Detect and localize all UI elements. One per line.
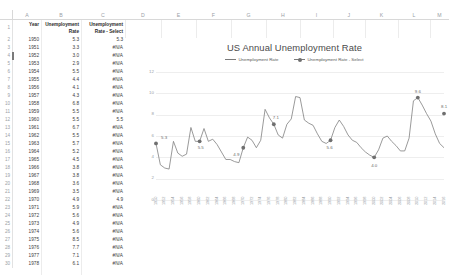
cell-a16[interactable]: 1964 (13, 148, 41, 156)
column-header-k[interactable]: K (365, 10, 398, 20)
cell-a19[interactable]: 1967 (13, 172, 41, 180)
cell-c12[interactable]: 5.5 (81, 116, 125, 124)
series-marker-select[interactable] (416, 96, 420, 100)
legend-item-unemployment-rate-select[interactable]: Unemployment Rate - Select (294, 57, 363, 62)
column-header-c[interactable]: C (81, 10, 125, 20)
cell-a8[interactable]: 1956 (13, 84, 41, 92)
row-header-7[interactable]: 7 (0, 76, 13, 84)
cell-c20[interactable]: #N/A (81, 180, 125, 188)
column-header-g[interactable]: G (231, 10, 266, 20)
cell-c17[interactable]: #N/A (81, 156, 125, 164)
cell-a14[interactable]: 1962 (13, 132, 41, 140)
cell-a11[interactable]: 1959 (13, 108, 41, 116)
row-header-8[interactable]: 8 (0, 84, 13, 92)
header-cell-a[interactable]: Year (13, 20, 41, 36)
column-header-h[interactable]: H (266, 10, 300, 20)
series-marker-select[interactable] (198, 139, 202, 143)
cell-a5[interactable]: 1953 (13, 60, 41, 68)
cell-a3[interactable]: 1951 (13, 44, 41, 52)
row-header-26[interactable]: 26 (0, 228, 13, 236)
column-header-j[interactable]: J (333, 10, 365, 20)
cell-a17[interactable]: 1965 (13, 156, 41, 164)
cell-c24[interactable]: #N/A (81, 212, 125, 220)
cell-b7[interactable]: 4.4 (41, 76, 81, 84)
cell-b30[interactable]: 6.1 (41, 260, 81, 268)
select-all-corner[interactable] (0, 10, 13, 20)
cell-b5[interactable]: 2.9 (41, 60, 81, 68)
cell-c22[interactable]: 4.9 (81, 196, 125, 204)
row-header-23[interactable]: 23 (0, 204, 13, 212)
cell-c28[interactable]: #N/A (81, 244, 125, 252)
chart-object[interactable]: US Annual Unemployment Rate Unemployment… (140, 30, 449, 245)
cell-c4[interactable]: #N/A (81, 52, 125, 60)
cell-b29[interactable]: 7.1 (41, 252, 81, 260)
cell-c25[interactable]: #N/A (81, 220, 125, 228)
cell-b27[interactable]: 8.5 (41, 236, 81, 244)
cell-c5[interactable]: #N/A (81, 60, 125, 68)
series-marker-select[interactable] (154, 142, 158, 146)
row-header-20[interactable]: 20 (0, 180, 13, 188)
row-header-10[interactable]: 10 (0, 100, 13, 108)
cell-b14[interactable]: 5.5 (41, 132, 81, 140)
cell-a21[interactable]: 1969 (13, 188, 41, 196)
cell-b20[interactable]: 3.6 (41, 180, 81, 188)
series-marker-select[interactable] (372, 155, 376, 159)
row-header-18[interactable]: 18 (0, 164, 13, 172)
cell-c9[interactable]: #N/A (81, 92, 125, 100)
cell-b22[interactable]: 4.9 (41, 196, 81, 204)
row-header-19[interactable]: 19 (0, 172, 13, 180)
cell-c2[interactable]: 5.3 (81, 36, 125, 44)
row-header-17[interactable]: 17 (0, 156, 13, 164)
row-header-21[interactable]: 21 (0, 188, 13, 196)
legend-item-unemployment-rate[interactable]: Unemployment Rate (225, 57, 278, 62)
series-marker-select[interactable] (272, 122, 276, 126)
cell-c21[interactable]: #N/A (81, 188, 125, 196)
cell-b13[interactable]: 6.7 (41, 124, 81, 132)
cell-a12[interactable]: 1960 (13, 116, 41, 124)
column-header-m[interactable]: M (430, 10, 449, 20)
cell-b3[interactable]: 3.3 (41, 44, 81, 52)
cell-c26[interactable]: #N/A (81, 228, 125, 236)
cell-b24[interactable]: 5.6 (41, 212, 81, 220)
cell-a30[interactable]: 1978 (13, 260, 41, 268)
row-header-1[interactable]: 1 (0, 20, 13, 36)
cell-a10[interactable]: 1958 (13, 100, 41, 108)
table-row[interactable]: 19777.1#N/A (13, 252, 449, 260)
row-header-13[interactable]: 13 (0, 124, 13, 132)
row-header-27[interactable]: 27 (0, 236, 13, 244)
cell-a24[interactable]: 1972 (13, 212, 41, 220)
cell-b6[interactable]: 5.5 (41, 68, 81, 76)
series-marker-select[interactable] (442, 112, 446, 116)
column-header-d[interactable]: D (125, 10, 161, 20)
row-header-24[interactable]: 24 (0, 212, 13, 220)
cell-c14[interactable]: #N/A (81, 132, 125, 140)
cell-b18[interactable]: 3.8 (41, 164, 81, 172)
cell-b17[interactable]: 4.5 (41, 156, 81, 164)
cell-a7[interactable]: 1955 (13, 76, 41, 84)
column-header-f[interactable]: F (196, 10, 231, 20)
cell-c27[interactable]: #N/A (81, 236, 125, 244)
row-header-11[interactable]: 11 (0, 108, 13, 116)
cell-c6[interactable]: #N/A (81, 68, 125, 76)
cell-a22[interactable]: 1970 (13, 196, 41, 204)
cell-a4[interactable]: 1952 (13, 52, 41, 60)
cell-b25[interactable]: 4.9 (41, 220, 81, 228)
cell-a26[interactable]: 1974 (13, 228, 41, 236)
cell-b16[interactable]: 5.2 (41, 148, 81, 156)
column-header-b[interactable]: B (41, 10, 81, 20)
cell-b11[interactable]: 5.5 (41, 108, 81, 116)
row-header-2[interactable]: 2 (0, 36, 13, 44)
cell-a9[interactable]: 1957 (13, 92, 41, 100)
cell-c3[interactable]: #N/A (81, 44, 125, 52)
cell-c23[interactable]: #N/A (81, 204, 125, 212)
cell-b15[interactable]: 5.7 (41, 140, 81, 148)
row-header-9[interactable]: 9 (0, 92, 13, 100)
cell-b21[interactable]: 3.5 (41, 188, 81, 196)
cell-c8[interactable]: #N/A (81, 84, 125, 92)
cell-c15[interactable]: #N/A (81, 140, 125, 148)
cell-a23[interactable]: 1971 (13, 204, 41, 212)
row-header-25[interactable]: 25 (0, 220, 13, 228)
row-header-3[interactable]: 3 (0, 44, 13, 52)
cell-c16[interactable]: #N/A (81, 148, 125, 156)
cell-c30[interactable]: #N/A (81, 260, 125, 268)
